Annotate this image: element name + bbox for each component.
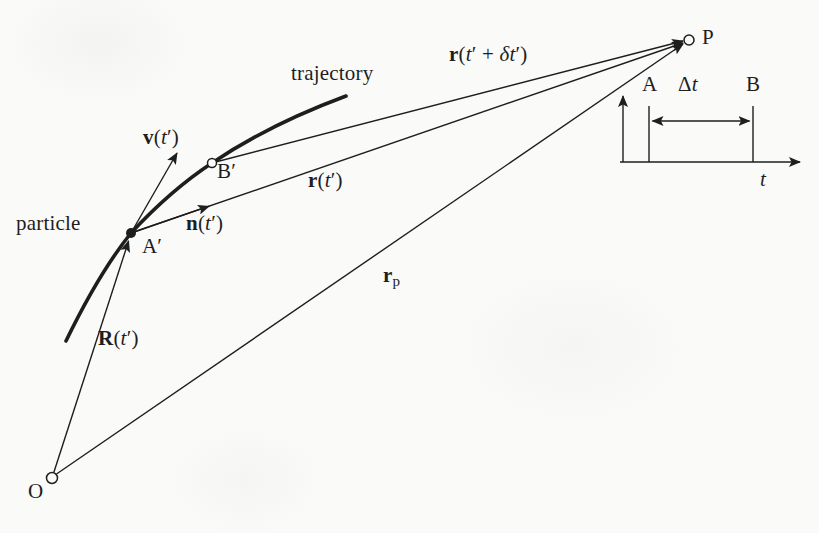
r-symbol: r <box>449 42 459 66</box>
unit-vector-label: n(t′) <box>186 212 223 234</box>
paren-open: ( <box>198 211 205 235</box>
rp-vector-line <box>57 44 684 474</box>
prime-paren-close: ′) <box>167 125 179 149</box>
particle-trajectory-figure: particle trajectory A′ B′ P O v(t′) n(t′… <box>0 0 819 533</box>
R-vector-line <box>54 241 129 473</box>
unit-vector-symbol: n <box>186 211 198 235</box>
subscript-p: p <box>393 273 401 289</box>
inset-delta-t-label: Δt <box>678 73 698 95</box>
capital-delta-symbol: Δ <box>678 72 692 96</box>
delta-symbol: δ <box>500 42 510 66</box>
trajectory-label: trajectory <box>291 62 373 84</box>
rp-vector-label: rp <box>383 264 400 290</box>
paren-open: ( <box>318 168 325 192</box>
r-vector-label: r(t′) <box>308 169 343 191</box>
inset-tick-b-label: B <box>746 73 760 95</box>
r-vector-line <box>131 43 683 233</box>
paren-open: ( <box>113 326 120 350</box>
inset-tick-a-label: A <box>642 73 657 95</box>
prime-paren-close: ′) <box>211 211 223 235</box>
prime-paren-close: ′) <box>516 42 528 66</box>
particle-dot <box>126 228 136 238</box>
particle-label: particle <box>16 212 81 234</box>
position-R-vector-label: R(t′) <box>98 327 139 349</box>
paren-open: ( <box>459 42 466 66</box>
prime-paren-close: ′) <box>127 326 139 350</box>
point-p-label: P <box>702 26 714 48</box>
plus-sign: ′ + <box>472 42 500 66</box>
r-symbol: r <box>383 263 393 287</box>
point-a-prime-label: A′ <box>142 235 162 257</box>
origin-circle <box>47 473 58 484</box>
time-symbol: t <box>692 72 698 96</box>
time-axis-label: t <box>760 168 766 190</box>
origin-label: O <box>28 480 43 502</box>
point-b-prime-label: B′ <box>217 160 236 182</box>
r-symbol: r <box>308 168 318 192</box>
point-b-prime-circle <box>208 159 217 168</box>
r-delta-vector-label: r(t′ + δt′) <box>449 43 528 65</box>
point-p-circle <box>684 35 694 45</box>
R-symbol: R <box>98 326 113 350</box>
paren-open: ( <box>154 125 161 149</box>
velocity-symbol: v <box>143 125 154 149</box>
velocity-vector-label: v(t′) <box>143 126 179 148</box>
prime-paren-close: ′) <box>331 168 343 192</box>
